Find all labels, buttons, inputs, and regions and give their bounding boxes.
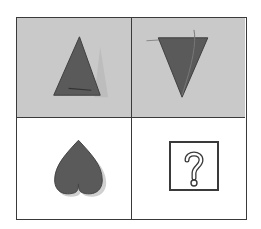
cell-triangle-down	[132, 18, 245, 118]
cell-heart	[17, 118, 132, 219]
heart-icon	[17, 118, 131, 219]
cell-triangle-up	[17, 18, 132, 118]
triangle-down-icon	[132, 18, 245, 117]
question-mark-box-icon	[132, 118, 245, 219]
triangle-up-icon	[17, 18, 131, 117]
puzzle-grid	[16, 17, 247, 220]
cell-question	[132, 118, 245, 219]
